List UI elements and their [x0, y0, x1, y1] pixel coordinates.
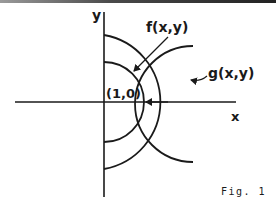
g-label-arrow: [191, 76, 207, 81]
y-axis-label: y: [92, 7, 101, 23]
g-label: g(x,y): [208, 65, 254, 81]
point-label: (1,0): [106, 86, 141, 101]
figure-caption: Fig. 1: [221, 186, 266, 197]
diagram-canvas: y x f(x,y) g(x,y) (1,0) Fig. 1: [0, 0, 276, 207]
x-axis-label: x: [231, 109, 240, 124]
f-label: f(x,y): [146, 19, 188, 35]
